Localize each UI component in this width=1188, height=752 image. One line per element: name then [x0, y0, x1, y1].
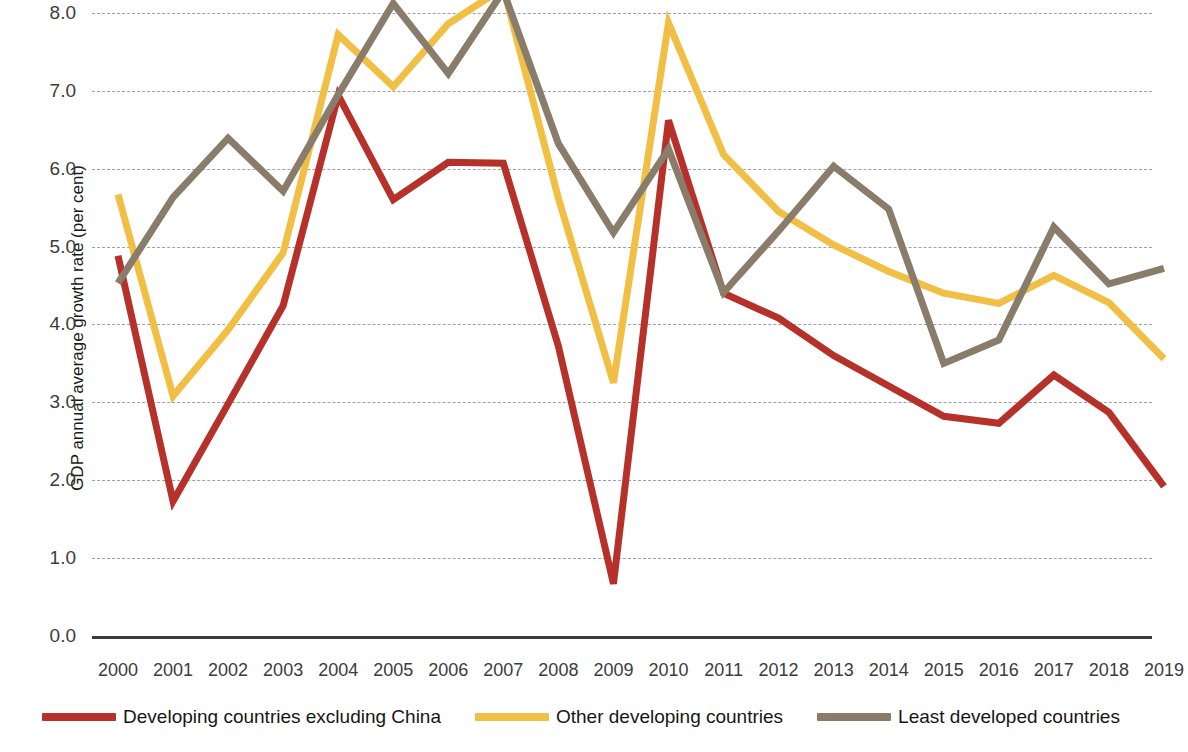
- legend-label-0: Developing countries excluding China: [123, 706, 441, 728]
- y-tick-8.0: 8.0: [14, 2, 76, 24]
- series-line-developing-countries-excluding-china: [118, 95, 1164, 583]
- y-tick-6.0: 6.0: [14, 158, 76, 180]
- series-lines: [92, 0, 1152, 637]
- y-tick-4.0: 4.0: [14, 313, 76, 335]
- legend-swatch-icon-2: [817, 713, 891, 721]
- y-tick-5.0: 5.0: [14, 236, 76, 258]
- legend-swatch-icon-0: [42, 713, 116, 721]
- y-tick-1.0: 1.0: [14, 547, 76, 569]
- legend-item-0[interactable]: Developing countries excluding China: [42, 706, 441, 728]
- y-tick-3.0: 3.0: [14, 391, 76, 413]
- y-tick-0.0: 0.0: [14, 625, 76, 647]
- y-tick-2.0: 2.0: [14, 469, 76, 491]
- legend-item-2[interactable]: Least developed countries: [817, 706, 1120, 728]
- legend-item-1[interactable]: Other developing countries: [475, 706, 783, 728]
- y-tick-7.0: 7.0: [14, 80, 76, 102]
- plot-area: [92, 0, 1152, 637]
- legend-label-1: Other developing countries: [556, 706, 783, 728]
- x-tick-2019: 2019: [1129, 660, 1188, 681]
- legend-label-2: Least developed countries: [898, 706, 1120, 728]
- legend-swatch-icon-1: [475, 713, 549, 721]
- chart-legend: Developing countries excluding ChinaOthe…: [0, 700, 1162, 734]
